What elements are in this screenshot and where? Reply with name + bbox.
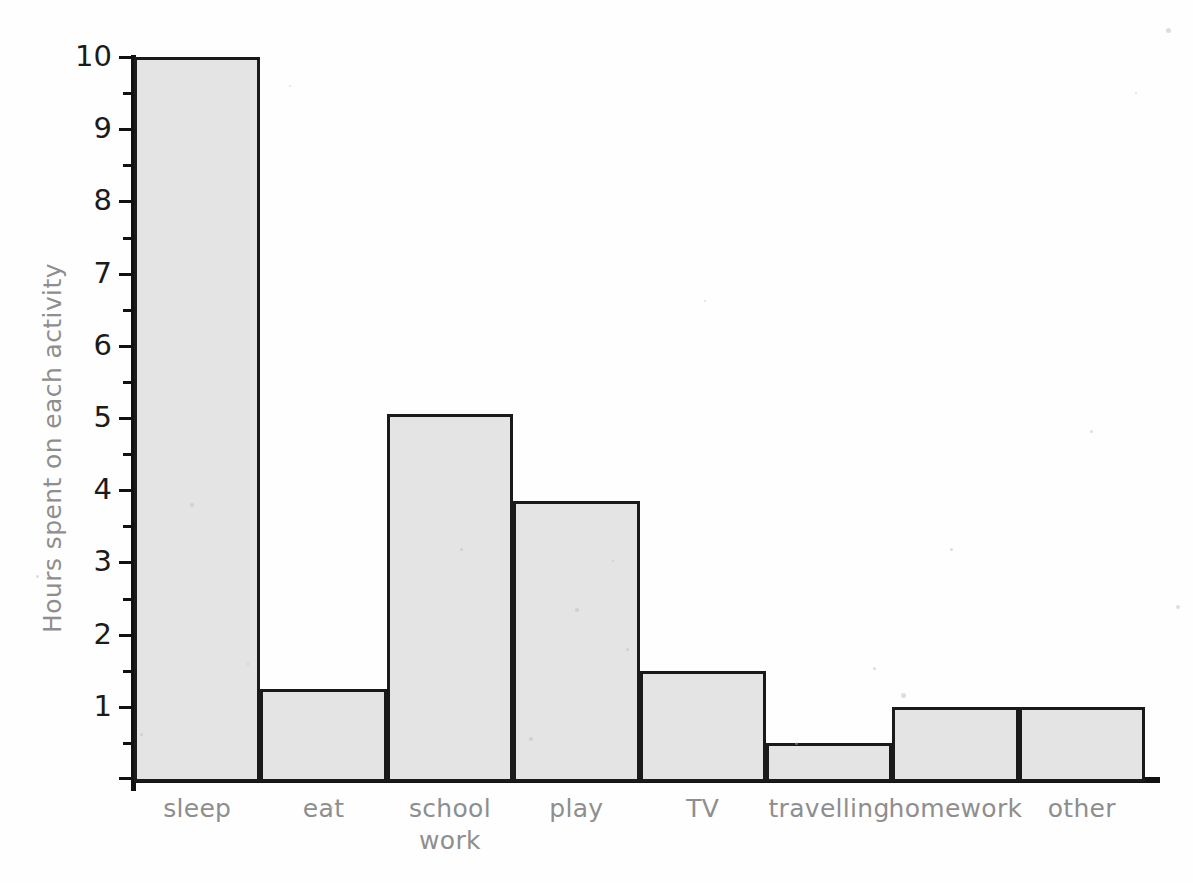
x-axis-tick-label-line1: eat [303,794,344,823]
x-axis-tick-label: schoolwork [377,793,523,857]
x-axis-tick-label-line1: school [409,794,491,823]
x-axis-tick-label-line2: work [377,825,523,857]
x-axis-tick-label: play [503,793,649,825]
x-axis-tick-label-line1: sleep [163,794,231,823]
x-axis-tick-label: homework [882,793,1028,825]
bar [513,501,639,782]
x-axis-tick-label: TV [630,793,776,825]
x-axis-tick-label-line1: play [549,794,603,823]
x-axis-tick-label-line1: homework [889,794,1023,823]
x-axis-tick-label: other [1009,793,1155,825]
bar [387,414,513,782]
x-axis-tick-label: sleep [124,793,270,825]
bar [640,671,766,782]
bar [260,689,386,782]
x-axis-tick-label-line1: TV [686,794,719,823]
bar-series [0,0,1193,883]
x-axis-tick-label: eat [250,793,396,825]
x-axis-tick-label: travelling [756,793,902,825]
bar-chart: Hours spent on each activity 10987654321… [0,0,1193,883]
bar [1019,707,1145,782]
x-axis-tick-label-line1: other [1048,794,1116,823]
x-axis-tick-label-line1: travelling [768,794,889,823]
bar [134,57,260,782]
bar [766,743,892,782]
x-axis-tick-labels: sleepeatschoolworkplayTVtravellinghomewo… [0,793,1193,873]
bar [892,707,1018,782]
